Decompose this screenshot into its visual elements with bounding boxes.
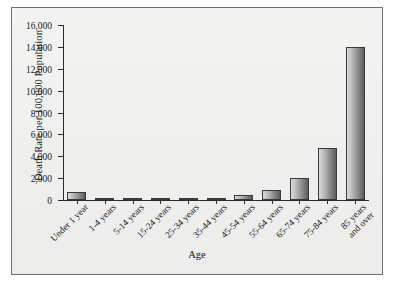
y-tick-label: 2,000 [31, 174, 52, 184]
y-tick: 12,000 [58, 69, 64, 70]
y-tick-label: 0 [47, 196, 52, 206]
y-tick-label: 14,000 [26, 43, 52, 53]
y-tick-label: 8,000 [31, 109, 52, 119]
y-tick: 4,000 [58, 156, 64, 157]
y-tick-label: 16,000 [26, 21, 52, 31]
bar-65-74-years [290, 178, 309, 200]
x-axis-title: Age [12, 249, 382, 260]
bar-15-24-years [151, 198, 170, 201]
bar-1-4-years [95, 198, 114, 201]
y-tick-label: 4,000 [31, 152, 52, 162]
bar-25-34-years [179, 198, 198, 201]
y-tick: 2,000 [58, 178, 64, 179]
bar-55-64-years [262, 190, 281, 200]
chart-figure: Death Rate per 100,000 Population 02,000… [11, 7, 383, 275]
bar-85-years-and-over [346, 47, 365, 200]
plot-area: 02,0004,0006,0008,00010,00012,00014,0001… [63, 25, 369, 200]
bar-45-54-years [234, 195, 253, 200]
x-category-label-line: Under 1 year [49, 202, 90, 243]
y-tick-label: 10,000 [26, 87, 52, 97]
y-tick: 0 [58, 200, 64, 201]
bar-5-14-years [123, 198, 142, 201]
y-tick: 10,000 [58, 91, 64, 92]
bar-under-1-year [67, 192, 86, 200]
y-tick-label: 12,000 [26, 65, 52, 75]
bar-35-44-years [207, 198, 226, 201]
x-category-label: 85 yearsand over [338, 202, 376, 240]
y-tick: 16,000 [58, 25, 64, 26]
y-tick: 14,000 [58, 47, 64, 48]
x-category-label: Under 1 year [49, 202, 91, 244]
bar-75-84-years [318, 148, 337, 201]
y-tick: 8,000 [58, 113, 64, 114]
y-tick-label: 6,000 [31, 130, 52, 140]
y-tick: 6,000 [58, 134, 64, 135]
